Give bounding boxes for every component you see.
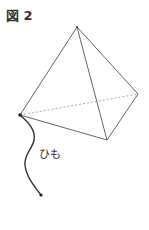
string-attach-point [18, 113, 22, 117]
string-label: ひも [39, 149, 61, 160]
hidden-edge-left-right [20, 94, 138, 115]
string [20, 115, 41, 195]
edge-right-bottom [107, 94, 138, 140]
edge-left-bottom [20, 115, 107, 140]
tetrahedron-diagram [0, 0, 149, 230]
edge-apex-left [20, 27, 77, 115]
tetrahedron [20, 27, 138, 140]
apex-point [76, 26, 78, 28]
string-end-point [39, 193, 42, 196]
